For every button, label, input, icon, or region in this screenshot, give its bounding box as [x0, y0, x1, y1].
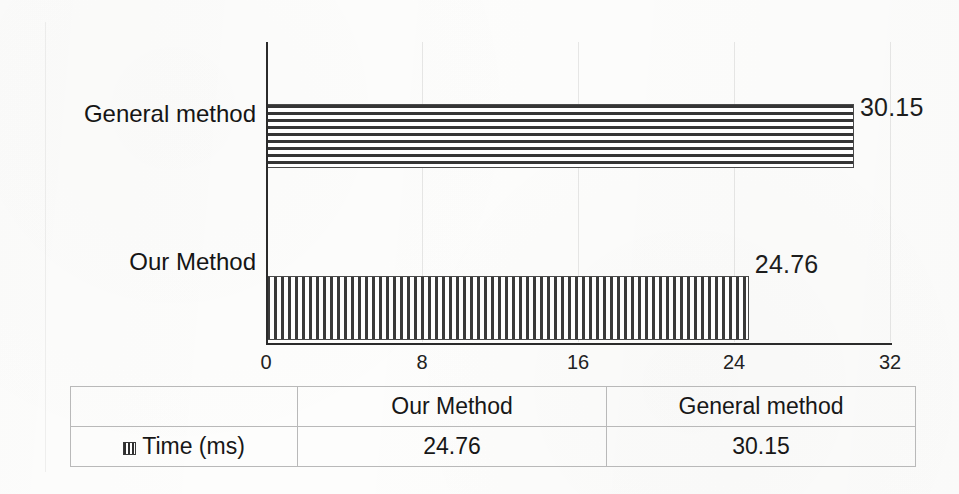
value-label-general-method: 30.15: [860, 93, 924, 122]
x-axis-line: [266, 343, 892, 345]
bar-general-method: [266, 104, 854, 168]
table-column-header-our-method: Our Method: [298, 387, 607, 427]
data-table-container: Our Method General method Time (ms) 24.7…: [70, 386, 888, 468]
y-axis-line: [266, 42, 268, 344]
x-tick-label-0: 0: [260, 351, 271, 374]
value-label-our-method: 24.76: [755, 250, 819, 279]
x-tick-label-24: 24: [723, 351, 745, 374]
category-label-general-method: General method: [38, 100, 256, 128]
table-corner-cell: [71, 387, 298, 427]
legend-swatch-icon: [123, 442, 136, 455]
table-header-row: Our Method General method: [71, 387, 916, 427]
scan-artifact-line: [45, 22, 46, 472]
table-cell-general-method-time: 30.15: [607, 427, 916, 467]
chart-figure: General method Our Method 30.15 24.76 0 …: [0, 0, 959, 494]
table-row: Time (ms) 24.76 30.15: [71, 427, 916, 467]
x-tick-label-32: 32: [879, 351, 901, 374]
data-table: Our Method General method Time (ms) 24.7…: [70, 386, 916, 467]
table-row-header-time: Time (ms): [71, 427, 298, 467]
category-label-our-method: Our Method: [38, 248, 256, 276]
table-cell-our-method-time: 24.76: [298, 427, 607, 467]
gridline-32: [890, 42, 891, 342]
bar-our-method: [266, 276, 749, 340]
table-column-header-general-method: General method: [607, 387, 916, 427]
plot-area: [266, 42, 890, 342]
x-tick-label-16: 16: [567, 351, 589, 374]
x-tick-label-8: 8: [416, 351, 427, 374]
table-row-header-label: Time (ms): [142, 433, 245, 459]
